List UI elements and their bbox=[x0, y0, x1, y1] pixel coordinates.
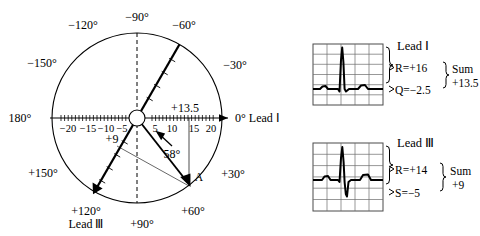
degree-label-plus-30: +30° bbox=[221, 167, 245, 181]
lead-iii-strip-label: Lead Ⅲ bbox=[397, 136, 434, 150]
degree-label-plus-120: +120° bbox=[71, 204, 101, 218]
lead-i-projection-value: +13.5 bbox=[171, 101, 199, 115]
lead-i-scale-5: 5 bbox=[152, 123, 157, 134]
lead-iii-brace bbox=[386, 146, 393, 184]
hexaxial-diagram: −90° −120° −150° 180° +150° +120° +90° +… bbox=[9, 10, 280, 231]
ecg-strip-lead-iii: Lead Ⅲ R=+14 S=−5 Sum +9 bbox=[313, 136, 471, 211]
lead-i-r-measurement: R=+16 bbox=[395, 62, 427, 74]
ecg-strip-lead-i: Lead Ⅰ R=+16 Q=−2.5 Sum +13.5 bbox=[313, 39, 479, 105]
degree-label-plus-90: +90° bbox=[130, 217, 154, 231]
degree-label-0-lead-i: 0° Lead Ⅰ bbox=[235, 111, 280, 125]
lead-iii-s-measurement: S=−5 bbox=[395, 187, 420, 199]
lead-i-strip-label: Lead Ⅰ bbox=[397, 39, 429, 53]
lead-i-scale-minus-15: −15 bbox=[80, 123, 96, 134]
degree-label-minus-90: −90° bbox=[125, 10, 149, 24]
ecg-axis-figure: −90° −120° −150° 180° +150° +120° +90° +… bbox=[0, 0, 480, 236]
s-wave-pointer-lead-iii bbox=[389, 189, 394, 195]
lead-i-scale-15: 15 bbox=[189, 123, 200, 134]
degree-label-minus-30: −30° bbox=[223, 58, 247, 72]
lead-i-q-measurement: Q=−2.5 bbox=[395, 84, 431, 96]
sum-brace-lead-iii bbox=[440, 163, 446, 191]
lead-i-sum-value: +13.5 bbox=[452, 77, 479, 89]
degree-label-plus-60: +60° bbox=[181, 204, 205, 218]
lead-i-sum-label: Sum bbox=[452, 63, 473, 75]
lead-iii-projection-value: +9 bbox=[106, 132, 119, 146]
sum-brace-lead-i bbox=[443, 62, 449, 88]
degree-label-minus-60: −60° bbox=[172, 18, 196, 32]
degree-label-180: 180° bbox=[9, 111, 32, 125]
origin-hub bbox=[129, 110, 145, 126]
lead-i-scale-10: 10 bbox=[167, 123, 178, 134]
degree-label-minus-120: −120° bbox=[68, 18, 98, 32]
lead-iii-r-measurement: R=+14 bbox=[395, 164, 427, 176]
q-wave-pointer-lead-i bbox=[389, 86, 394, 92]
lead-iii-sum-value: +9 bbox=[452, 179, 464, 191]
lead-i-scale-20: 20 bbox=[206, 123, 217, 134]
degree-label-plus-150: +150° bbox=[28, 166, 58, 180]
figure-root: −90° −120° −150° 180° +150° +120° +90° +… bbox=[0, 0, 480, 236]
lead-i-scale-minus-20: −20 bbox=[60, 123, 76, 134]
vector-point-label: A bbox=[195, 171, 204, 183]
lead-i-arrowhead bbox=[219, 114, 228, 122]
lead-iii-axis-label: Lead Ⅲ bbox=[69, 217, 104, 231]
degree-label-minus-150: −150° bbox=[27, 56, 57, 70]
vector-angle-label: 58° bbox=[164, 147, 181, 161]
lead-iii-sum-label: Sum bbox=[450, 165, 471, 177]
